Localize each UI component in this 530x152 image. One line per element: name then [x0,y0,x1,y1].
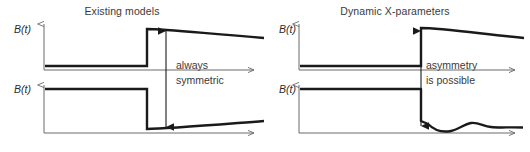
waveform-upper-left [45,29,264,66]
left-panel-graphics [0,0,265,152]
waveform-lower-right [300,89,523,132]
panel-dynamic-x-parameters: Dynamic X-parameters B(t) B(t) asymmetry… [265,0,530,152]
waveform-lower-left [45,89,264,129]
right-panel-graphics [265,0,530,152]
upper-axes-left [44,24,254,70]
waveform-upper-right [300,28,524,66]
panel-existing-models: Existing models B(t) B(t) always symmetr… [0,0,265,152]
upper-axes-right [299,24,515,70]
figure-comparison-diagram: Existing models B(t) B(t) always symmetr… [0,0,530,152]
lower-axes-left [44,85,254,133]
